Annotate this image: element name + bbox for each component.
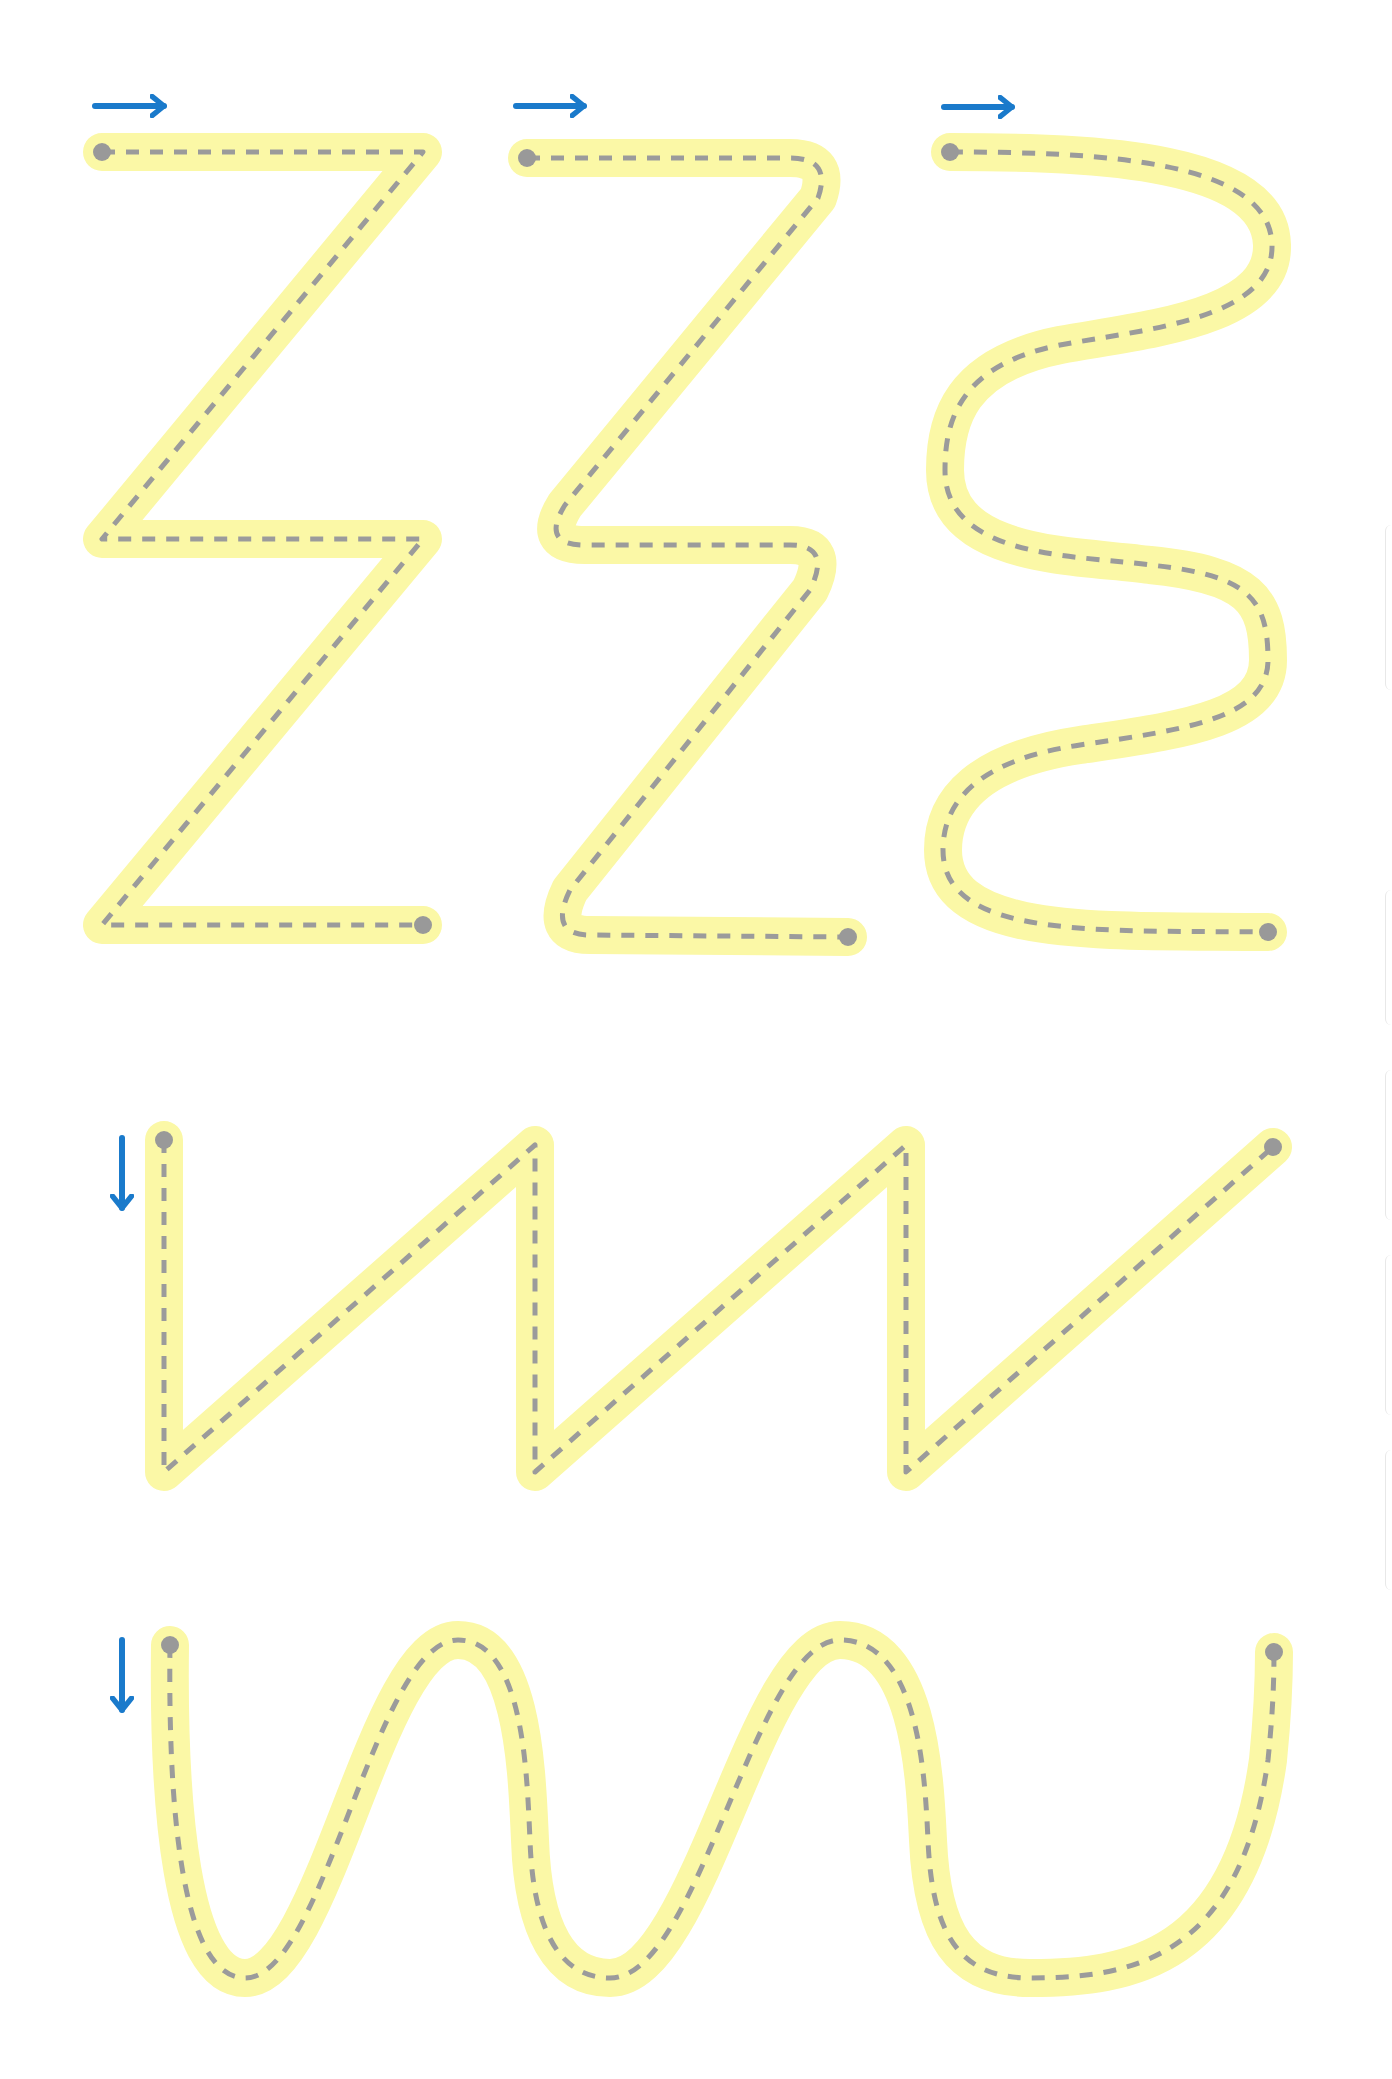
trace-track	[527, 158, 848, 937]
trace-exercise-zigzag-rounded[interactable]	[516, 106, 857, 946]
page-edge-tab	[1385, 525, 1392, 690]
trace-exercise-sawtooth[interactable]	[122, 1131, 1282, 1472]
start-dot-icon	[161, 1636, 179, 1654]
trace-exercise-u-wave[interactable]	[122, 1636, 1283, 1978]
page-edge-tab	[1385, 1255, 1392, 1415]
start-dot-icon	[941, 143, 959, 161]
end-dot-icon	[1259, 923, 1277, 941]
trace-exercise-zigzag-sharp[interactable]	[93, 106, 432, 934]
page-edge-tab	[1385, 1450, 1392, 1590]
end-dot-icon	[414, 916, 432, 934]
end-dot-icon	[1265, 1643, 1283, 1661]
page-edge-tab	[1385, 1070, 1392, 1220]
trace-track	[943, 152, 1272, 932]
start-dot-icon	[93, 143, 111, 161]
tracing-worksheet	[0, 0, 1392, 2079]
start-dot-icon	[518, 149, 536, 167]
trace-exercise-s-wave[interactable]	[941, 107, 1277, 941]
end-dot-icon	[839, 928, 857, 946]
page-edge-tab	[1385, 890, 1392, 1025]
trace-track	[164, 1140, 1273, 1472]
start-dot-icon	[155, 1131, 173, 1149]
trace-track	[170, 1640, 1274, 1978]
end-dot-icon	[1264, 1138, 1282, 1156]
